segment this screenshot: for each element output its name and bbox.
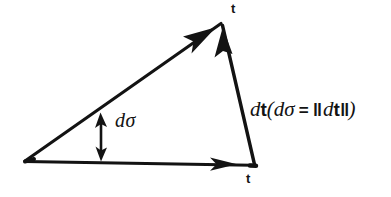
expr-norm-open: ‖ — [313, 100, 321, 119]
expr-equals: = — [295, 102, 313, 119]
expr-inner-d: d — [274, 99, 285, 120]
base-vector-t-edge — [25, 158, 252, 171]
hypotenuse-arrowhead-icon — [183, 27, 216, 53]
dt-arrowhead-icon — [215, 27, 233, 58]
d-sigma-angle-marker — [95, 113, 107, 162]
expr-open-paren: ( — [267, 99, 274, 120]
expr-close-paren: ) — [348, 99, 355, 120]
dt-vector-edge — [215, 26, 255, 165]
hypotenuse-vector-t-edge — [25, 24, 221, 162]
d-sigma-label: dσ — [115, 110, 136, 130]
vertex-label-t-top: t — [231, 2, 235, 15]
expr-lead-d: d — [250, 99, 261, 120]
expr-inner-sigma: σ — [284, 99, 294, 120]
expr-norm-d: d — [323, 99, 334, 120]
vertex-label-t-bottom: t — [246, 172, 250, 185]
left-vertex — [25, 159, 34, 162]
dt-expression-label: d t ( d σ = ‖ d t ‖ ) — [250, 99, 355, 120]
